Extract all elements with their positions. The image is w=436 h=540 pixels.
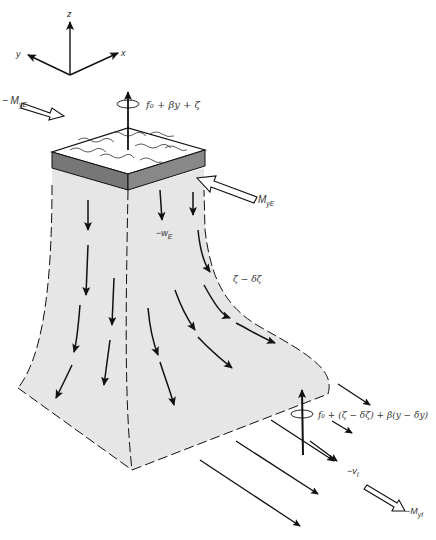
axis-x-label: x: [120, 48, 126, 58]
surface-rotation-label: f₀ + βy + ζ: [145, 99, 201, 110]
coordinate-axes: [28, 22, 118, 75]
ekman-diagram: z y x f₀ + βy + ζ − MyE MyE: [0, 0, 436, 540]
column-vorticity-label: ζ − δζ: [233, 274, 263, 284]
axis-z-label: z: [66, 9, 72, 19]
fluid-column: [18, 168, 329, 470]
interior-rotation-arrow: [302, 390, 303, 455]
transport-left-label: − MyE: [2, 95, 27, 109]
transport-right-label: MyE: [258, 194, 275, 208]
axis-y-label: y: [15, 49, 21, 59]
transport-arrow-left: [21, 103, 64, 120]
interior-rotation-label: f₀ + (ζ − δζ) + β(y − δy): [317, 410, 428, 420]
transport-arrow-right: [197, 176, 257, 203]
interior-transport-label: −MyI: [405, 506, 423, 519]
interior-transport-arrow: [364, 485, 405, 511]
interior-velocity-label: −vI: [347, 466, 359, 478]
